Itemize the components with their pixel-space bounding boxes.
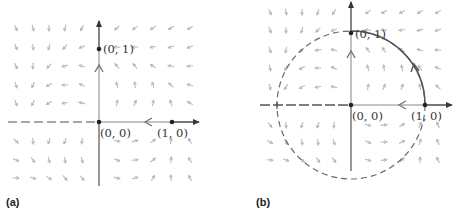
- label-a-0-1: (0, 1): [103, 42, 134, 56]
- point-b-0-1: [349, 31, 354, 36]
- unit-circle-arc-highlight: [351, 31, 425, 105]
- label-a-0-0: (0, 0): [100, 126, 131, 140]
- panel-tag-a: (a): [6, 196, 20, 208]
- vector-field-b: [267, 9, 440, 162]
- point-a-0-0: [97, 120, 102, 125]
- point-a-1-0: [170, 120, 175, 125]
- panel-a: (0, 1) (0, 0) (1, 0) (a): [6, 21, 199, 208]
- point-a-0-1: [97, 47, 102, 52]
- point-b-0-0: [349, 103, 354, 108]
- label-a-1-0: (1, 0): [157, 126, 188, 140]
- label-b-1-0: (1, 0): [411, 109, 442, 123]
- label-b-0-0: (0, 0): [352, 109, 383, 123]
- point-b-1-0: [423, 103, 428, 108]
- panel-b: (0, 1) (0, 0) (1, 0) (b): [256, 2, 452, 208]
- figure-canvas: (0, 1) (0, 0) (1, 0) (a) (0, 1) (0, 0) (…: [0, 0, 461, 219]
- label-b-0-1: (0, 1): [355, 27, 386, 41]
- panel-tag-b: (b): [256, 196, 270, 208]
